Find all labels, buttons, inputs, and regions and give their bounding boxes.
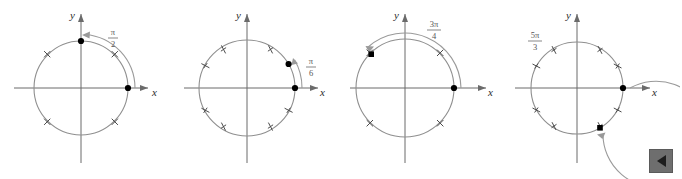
angle-numerator: 3π	[430, 19, 439, 29]
axes-group-1: x y	[14, 9, 157, 163]
triangle-left-icon	[657, 155, 666, 167]
tick-mark	[616, 108, 620, 113]
x-axis-label: x	[487, 86, 493, 98]
x-axis-arrowhead	[140, 85, 148, 91]
y-axis-label: y	[565, 9, 571, 21]
x-axis-arrowhead	[478, 85, 486, 91]
tick-mark	[535, 64, 539, 69]
terminal-point	[597, 125, 603, 131]
tick-mark	[221, 48, 226, 52]
initial-point	[292, 85, 298, 91]
y-axis-arrowhead	[574, 14, 580, 22]
angle-arc	[368, 33, 462, 88]
y-axis-label: y	[235, 9, 241, 21]
angle-denominator: 6	[309, 68, 313, 78]
terminal-point	[368, 51, 374, 57]
axes-group-3: x y	[350, 9, 493, 163]
angle-numerator: π	[309, 56, 314, 66]
initial-point	[451, 85, 457, 91]
x-axis-label: x	[151, 86, 157, 98]
angle-denominator: 2	[111, 39, 115, 49]
angle-measure-label: 3π 4	[427, 19, 441, 41]
terminal-point	[78, 38, 84, 44]
tick-mark	[268, 48, 273, 52]
previous-page-button[interactable]	[649, 149, 673, 173]
unit-circle-panel-2: x y	[170, 0, 340, 179]
y-axis-label: y	[393, 9, 399, 21]
angle-measure-label: π 6	[306, 56, 316, 78]
tick-mark	[221, 125, 226, 129]
x-axis-label: x	[651, 86, 657, 98]
angle-arc-arrowhead	[597, 133, 606, 140]
y-axis-arrowhead	[402, 14, 408, 22]
angle-denominator: 4	[432, 31, 437, 41]
tick-mark	[268, 125, 273, 129]
x-axis-arrowhead	[642, 85, 650, 91]
terminal-point	[286, 61, 292, 67]
angle-measure-label: 5π 3	[528, 30, 542, 52]
y-axis-arrowhead	[78, 14, 84, 22]
angle-numerator: π	[111, 27, 116, 37]
angle-numerator: 5π	[531, 30, 540, 40]
unit-circle-panel-1: x y π 2	[0, 0, 170, 179]
y-axis-arrowhead	[244, 14, 250, 22]
angle-measure-label: π 2	[108, 27, 118, 49]
unit-circle-panel-3: x y 3π 4	[340, 0, 510, 179]
initial-point	[620, 85, 626, 91]
initial-point	[125, 85, 131, 91]
y-axis-label: y	[69, 9, 75, 21]
x-axis-arrowhead	[310, 85, 318, 91]
angle-denominator: 3	[533, 42, 537, 52]
angle-arc-arrowhead	[82, 32, 90, 39]
x-axis-label: x	[319, 86, 325, 98]
unit-circle-figure-strip: x y π 2	[0, 0, 682, 179]
axes-group-2: x y	[184, 9, 325, 163]
